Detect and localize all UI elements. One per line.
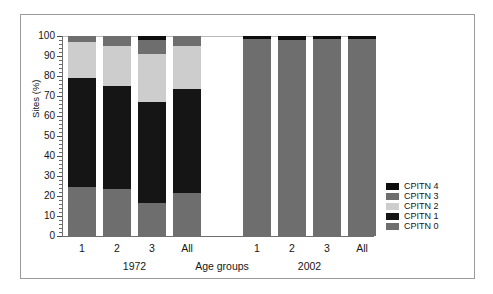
y-tick-major bbox=[57, 156, 62, 157]
legend-swatch-icon bbox=[386, 203, 399, 210]
y-tick-major bbox=[57, 176, 62, 177]
y-tick-major bbox=[57, 96, 62, 97]
bar-segment-cpitn-2 bbox=[103, 46, 131, 86]
y-tick-minor bbox=[59, 220, 62, 221]
y-tick-label: 90 bbox=[44, 51, 55, 61]
y-tick-minor bbox=[59, 228, 62, 229]
bar-segment-cpitn-1 bbox=[138, 102, 166, 203]
bar-segment-cpitn-3 bbox=[138, 40, 166, 54]
y-tick-minor bbox=[59, 108, 62, 109]
y-tick-minor bbox=[59, 200, 62, 201]
figure-root: Sites (%) 0102030405060708090100 123All1… bbox=[0, 0, 493, 294]
chart-legend: CPITN 4CPITN 3CPITN 2CPITN 1CPITN 0 bbox=[386, 182, 470, 232]
bar-segment-cpitn-4 bbox=[138, 36, 166, 40]
y-tick-minor bbox=[59, 148, 62, 149]
bar-segment-cpitn-0 bbox=[103, 189, 131, 236]
legend-label: CPITN 4 bbox=[404, 182, 439, 191]
y-tick-label: 80 bbox=[44, 71, 55, 81]
y-tick-label: 40 bbox=[44, 151, 55, 161]
y-tick-minor bbox=[59, 232, 62, 233]
y-tick-minor bbox=[59, 104, 62, 105]
y-tick-major bbox=[57, 56, 62, 57]
stacked-bar bbox=[68, 36, 96, 236]
y-tick-label: 70 bbox=[44, 91, 55, 101]
stacked-bar bbox=[278, 36, 306, 236]
legend-swatch-icon bbox=[386, 183, 399, 190]
y-tick-minor bbox=[59, 172, 62, 173]
bar-segment-cpitn-3 bbox=[68, 36, 96, 42]
y-tick-major bbox=[57, 236, 62, 237]
y-tick-minor bbox=[59, 40, 62, 41]
plot-area: 0102030405060708090100 123All123All19722… bbox=[62, 36, 372, 236]
legend-label: CPITN 2 bbox=[404, 202, 439, 211]
stacked-bar bbox=[173, 36, 201, 236]
y-tick-minor bbox=[59, 152, 62, 153]
x-group-label: 2002 bbox=[270, 260, 350, 272]
y-tick-minor bbox=[59, 124, 62, 125]
x-tick-label: All bbox=[340, 242, 384, 254]
legend-label: CPITN 1 bbox=[404, 212, 439, 221]
y-tick-minor bbox=[59, 212, 62, 213]
bar-segment-cpitn-4 bbox=[243, 36, 271, 39]
bar-segment-cpitn-4 bbox=[348, 36, 376, 39]
bar-segment-cpitn-1 bbox=[173, 89, 201, 193]
legend-item: CPITN 0 bbox=[386, 222, 470, 231]
legend-item: CPITN 4 bbox=[386, 182, 470, 191]
y-tick-minor bbox=[59, 144, 62, 145]
y-tick-minor bbox=[59, 84, 62, 85]
stacked-bar bbox=[243, 36, 271, 236]
y-tick-major bbox=[57, 76, 62, 77]
y-tick-major bbox=[57, 216, 62, 217]
y-axis-title: Sites (%) bbox=[30, 79, 41, 118]
stacked-bar bbox=[348, 36, 376, 236]
y-tick-label: 20 bbox=[44, 191, 55, 201]
bar-segment-cpitn-3 bbox=[103, 36, 131, 46]
y-tick-label: 100 bbox=[38, 31, 55, 41]
bar-segment-cpitn-2 bbox=[138, 54, 166, 102]
y-tick-major bbox=[57, 196, 62, 197]
legend-label: CPITN 0 bbox=[404, 222, 439, 231]
bar-segment-cpitn-0 bbox=[173, 193, 201, 236]
y-tick-minor bbox=[59, 184, 62, 185]
y-tick-label: 30 bbox=[44, 171, 55, 181]
stacked-bar bbox=[313, 36, 341, 236]
y-tick-minor bbox=[59, 180, 62, 181]
legend-label: CPITN 3 bbox=[404, 192, 439, 201]
y-tick-minor bbox=[59, 48, 62, 49]
y-tick-minor bbox=[59, 204, 62, 205]
bar-segment-cpitn-0 bbox=[313, 39, 341, 236]
y-tick-minor bbox=[59, 120, 62, 121]
y-tick-minor bbox=[59, 64, 62, 65]
y-tick-major bbox=[57, 116, 62, 117]
y-tick-minor bbox=[59, 192, 62, 193]
y-tick-minor bbox=[59, 72, 62, 73]
y-tick-minor bbox=[59, 128, 62, 129]
bar-segment-cpitn-4 bbox=[278, 36, 306, 40]
y-axis-line bbox=[62, 36, 63, 236]
legend-swatch-icon bbox=[386, 213, 399, 220]
y-tick-minor bbox=[59, 100, 62, 101]
y-tick-minor bbox=[59, 44, 62, 45]
y-tick-minor bbox=[59, 92, 62, 93]
x-tick-label: All bbox=[165, 242, 209, 254]
y-tick-label: 0 bbox=[49, 231, 55, 241]
x-axis-title: Age groups bbox=[167, 260, 277, 272]
bar-segment-cpitn-4 bbox=[313, 36, 341, 39]
bar-segment-cpitn-2 bbox=[68, 42, 96, 78]
legend-swatch-icon bbox=[386, 223, 399, 230]
bar-segment-cpitn-1 bbox=[68, 78, 96, 187]
y-tick-minor bbox=[59, 140, 62, 141]
bar-segment-cpitn-0 bbox=[348, 39, 376, 236]
bar-segment-cpitn-0 bbox=[278, 40, 306, 236]
y-tick-minor bbox=[59, 188, 62, 189]
legend-item: CPITN 2 bbox=[386, 202, 470, 211]
y-tick-major bbox=[57, 36, 62, 37]
y-tick-label: 50 bbox=[44, 131, 55, 141]
y-tick-minor bbox=[59, 132, 62, 133]
y-tick-minor bbox=[59, 164, 62, 165]
y-tick-minor bbox=[59, 88, 62, 89]
stacked-bar bbox=[138, 36, 166, 236]
y-tick-major bbox=[57, 136, 62, 137]
y-tick-minor bbox=[59, 160, 62, 161]
x-group-label: 1972 bbox=[95, 260, 175, 272]
